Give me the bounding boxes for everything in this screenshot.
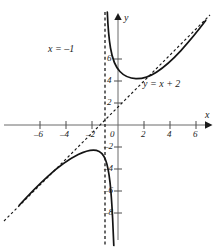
x-tick-label--6: –6 (34, 130, 43, 139)
x-axis-label: x (205, 110, 209, 120)
vertical-asymptote-label: x = –1 (48, 44, 74, 54)
axes-group (4, 13, 213, 240)
y-axis-arrow-icon (114, 13, 121, 20)
x-tick-label-6: 6 (193, 130, 198, 139)
graph-figure: –6 –4 –2 0 2 4 6 6 4 2 –2 –4 –6 –8 x y x… (0, 0, 219, 250)
x-tick-label--4: –4 (60, 130, 69, 139)
x-tick-label-0: 0 (110, 130, 115, 139)
y-tick-label-4: 4 (107, 76, 112, 85)
y-tick-label-2: 2 (107, 98, 112, 107)
x-tick-label-4: 4 (167, 130, 172, 139)
y-axis-label: y (124, 13, 128, 23)
y-tick-label--2: –2 (104, 142, 113, 151)
slant-asymptote-label: y = x + 2 (143, 79, 180, 89)
y-tick-label-6: 6 (107, 54, 112, 63)
curve-left-branch (19, 150, 114, 245)
x-axis-arrow-icon (205, 121, 213, 129)
y-tick-label--6: –6 (104, 186, 113, 195)
y-tick-label--4: –4 (104, 164, 113, 173)
y-tick-label--8: –8 (104, 208, 113, 217)
x-tick-label-2: 2 (141, 130, 146, 139)
x-tick-label--2: –2 (86, 130, 95, 139)
